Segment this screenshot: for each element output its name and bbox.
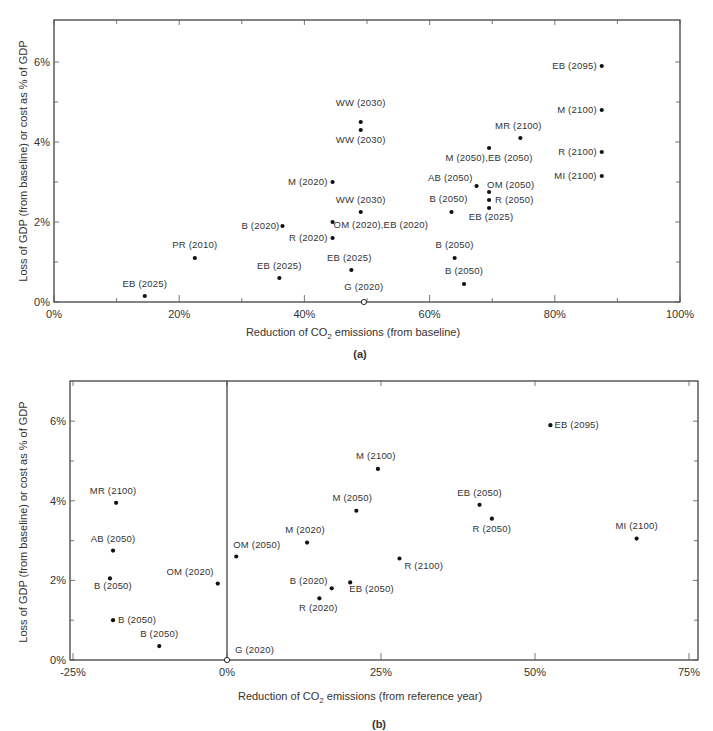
marker-icon bbox=[600, 174, 604, 178]
point-label: EB (2025) bbox=[327, 252, 372, 263]
x-tick-label: 40% bbox=[293, 308, 315, 320]
marker-icon bbox=[349, 268, 353, 272]
point-label: PR (2010) bbox=[172, 239, 217, 250]
marker-icon bbox=[397, 556, 401, 560]
point-label: B (2050) bbox=[140, 628, 178, 639]
point-label: B (2050) bbox=[436, 239, 474, 250]
point-label: M (2050),EB (2050) bbox=[446, 152, 533, 163]
data-point: M (2020) bbox=[285, 524, 325, 545]
data-point: B (2050) bbox=[429, 193, 467, 214]
marker-icon bbox=[359, 128, 363, 132]
data-point: AB (2050) bbox=[428, 172, 479, 188]
point-label: EB (2095) bbox=[552, 60, 597, 71]
marker-icon bbox=[157, 644, 161, 648]
point-label: M (2050) bbox=[333, 492, 373, 503]
data-point: B (2020) bbox=[290, 575, 334, 590]
point-label: G (2020) bbox=[235, 644, 274, 655]
x-axis-label-b: Reduction of CO2 emissions (from referen… bbox=[238, 690, 482, 705]
y-tick-label: 6% bbox=[50, 415, 66, 427]
data-point: EB (2025) bbox=[257, 260, 302, 280]
data-point: EB (2025) bbox=[122, 278, 167, 298]
marker-icon bbox=[305, 540, 309, 544]
x-tick-label: 60% bbox=[419, 308, 441, 320]
data-point: MR (2100) bbox=[495, 120, 542, 140]
marker-icon bbox=[359, 120, 363, 124]
point-label: B (2050) bbox=[445, 265, 483, 276]
point-label: R (2050) bbox=[473, 523, 512, 534]
point-label: B (2050) bbox=[94, 580, 132, 591]
marker-icon bbox=[359, 210, 363, 214]
marker-icon bbox=[600, 108, 604, 112]
x-axis-label-a: Reduction of CO2 emissions (from baselin… bbox=[246, 326, 460, 341]
point-label: MI (2100) bbox=[615, 520, 657, 531]
y-tick-label: 0% bbox=[50, 654, 66, 666]
x-axis-label-b-part2: emissions (from reference year) bbox=[324, 690, 482, 702]
data-point: EB (2050) bbox=[457, 487, 502, 507]
marker-icon bbox=[234, 554, 238, 558]
point-label: EB (2025) bbox=[122, 278, 167, 289]
point-label: B (2020) bbox=[241, 220, 279, 231]
data-point: OM (2050) bbox=[487, 179, 534, 194]
data-point: B (2020) bbox=[241, 220, 284, 231]
data-point: R (2050) bbox=[473, 517, 512, 534]
data-point: MI (2100) bbox=[615, 520, 657, 541]
point-label: AB (2050) bbox=[428, 172, 473, 183]
y-tick-label: 2% bbox=[50, 574, 66, 586]
x-tick-label: 20% bbox=[168, 308, 190, 320]
plot-frame-b bbox=[70, 381, 698, 660]
marker-icon bbox=[600, 150, 604, 154]
point-label: R (2020) bbox=[289, 232, 328, 243]
data-points-a: EB (2095)WW (2030)WW (2030)M (2100)MR (2… bbox=[122, 60, 603, 305]
data-point: OM (2020),EB (2020) bbox=[330, 219, 428, 230]
data-point: EB (2025) bbox=[327, 252, 372, 272]
data-points-b: EB (2095)M (2100)MR (2100)EB (2050)M (20… bbox=[90, 419, 658, 662]
marker-icon bbox=[111, 548, 115, 552]
data-point: B (2050) bbox=[94, 576, 132, 591]
figure: 0%20%40%60%80%100%0%2%4%6% EB (2095)WW (… bbox=[0, 0, 713, 731]
chart-a: 0%20%40%60%80%100%0%2%4%6% EB (2095)WW (… bbox=[17, 20, 694, 360]
x-tick-label: 50% bbox=[524, 666, 546, 678]
caption-b: (b) bbox=[372, 718, 386, 730]
data-point: B (2050) bbox=[111, 614, 156, 625]
data-point: OM (2050) bbox=[233, 539, 280, 559]
data-point: M (2050),EB (2050) bbox=[446, 146, 533, 163]
y-tick-label: 2% bbox=[34, 216, 50, 228]
data-point: R (2020) bbox=[299, 596, 338, 613]
y-tick-label: 4% bbox=[34, 136, 50, 148]
marker-icon bbox=[487, 206, 491, 210]
data-point: EB (2050) bbox=[348, 580, 394, 594]
x-axis-label-b-part1: Reduction of CO bbox=[238, 690, 320, 702]
data-point: EB (2025) bbox=[469, 206, 514, 222]
data-point: WW (2030) bbox=[336, 194, 386, 214]
marker-icon bbox=[449, 210, 453, 214]
point-label: M (2020) bbox=[285, 524, 325, 535]
data-point: PR (2010) bbox=[172, 239, 217, 260]
marker-icon bbox=[143, 294, 147, 298]
data-point: M (2100) bbox=[557, 104, 604, 115]
point-label: OM (2020),EB (2020) bbox=[334, 219, 429, 230]
data-point: MI (2100) bbox=[554, 170, 604, 181]
marker-icon bbox=[330, 180, 334, 184]
data-point: M (2100) bbox=[356, 450, 396, 471]
point-label: R (2100) bbox=[404, 560, 443, 571]
data-point: R (2100) bbox=[558, 146, 604, 157]
x-tick-label: 25% bbox=[370, 666, 392, 678]
point-label: B (2020) bbox=[290, 575, 328, 586]
marker-icon bbox=[487, 146, 491, 150]
chart-b: -25%0%25%50%75%0%2%4%6% EB (2095)M (2100… bbox=[17, 381, 700, 730]
marker-icon bbox=[330, 586, 334, 590]
marker-icon bbox=[114, 501, 118, 505]
data-point: MR (2100) bbox=[90, 485, 137, 505]
point-label: M (2100) bbox=[356, 450, 396, 461]
marker-icon bbox=[635, 537, 639, 541]
point-label: WW (2030) bbox=[336, 97, 386, 108]
y-axis-label-b: Loss of GDP (from baseline) or cost as %… bbox=[17, 401, 29, 642]
y-tick-label: 4% bbox=[50, 495, 66, 507]
x-tick-label: 100% bbox=[666, 308, 694, 320]
point-label: R (2050) bbox=[495, 194, 534, 205]
marker-icon bbox=[317, 596, 321, 600]
open-marker-icon bbox=[224, 657, 229, 662]
point-label: B (2050) bbox=[429, 193, 467, 204]
marker-icon bbox=[548, 423, 552, 427]
x-tick-label: 75% bbox=[678, 666, 700, 678]
